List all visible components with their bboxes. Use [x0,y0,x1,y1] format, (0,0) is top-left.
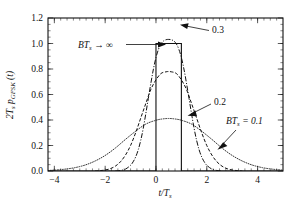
annotation-bts-0-1-label: BTs = 0.1 [226,116,263,127]
x-tick-label: 2 [204,175,209,185]
annotation-bts-infinity-label: BTs → ∞ [78,40,113,51]
annotation-0-2-label: 0.2 [214,97,226,107]
x-tick-label: −2 [100,175,110,185]
x-tick-label: 0 [154,175,159,185]
y-tick-label: 0.2 [31,141,43,151]
annotation-0-3-label: 0.3 [212,25,224,35]
x-axis-title: t/Ts [158,188,172,199]
y-axis-title: 2Ts pGFSK (t) [5,71,16,119]
gfsk-pulse-shape-chart: −4−2024 0.00.20.40.60.81.01.2 t/Ts 2Ts p… [0,0,293,208]
x-tick-label: −4 [49,175,59,185]
figure-container: −4−2024 0.00.20.40.60.81.01.2 t/Ts 2Ts p… [0,0,293,208]
y-tick-label: 0.4 [31,115,43,125]
y-tick-label: 0.0 [31,166,43,176]
y-tick-label: 0.6 [31,90,43,100]
y-tick-label: 0.8 [31,64,43,74]
x-tick-label: 4 [255,175,260,185]
x-tick-labels: −4−2024 [49,175,260,185]
y-tick-labels: 0.00.20.40.60.81.01.2 [31,13,43,176]
y-tick-label: 1.2 [31,13,43,23]
y-tick-label: 1.0 [31,39,43,49]
